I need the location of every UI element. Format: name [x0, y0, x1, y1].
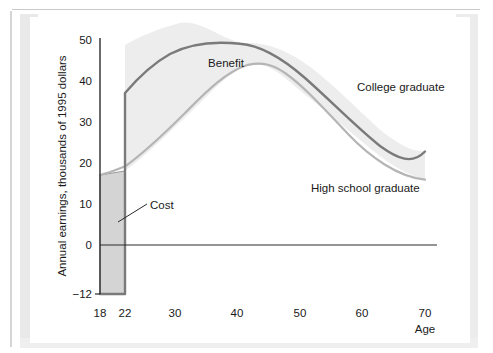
y-tick-50: 50: [79, 34, 92, 46]
x-tick-18: 18: [94, 307, 107, 319]
x-tick-30: 30: [169, 307, 182, 319]
x-tick-50: 50: [294, 307, 307, 319]
chart-canvas: 50 40 30 20 10 0 −12 18 22 30 40 50 60 7…: [0, 0, 493, 353]
page-root: 50 40 30 20 10 0 −12 18 22 30 40 50 60 7…: [0, 0, 493, 353]
benefit-label: Benefit: [208, 57, 245, 69]
benefit-shaded-region: [125, 23, 425, 294]
y-tick-minus12: −12: [72, 288, 92, 300]
y-tick-10: 10: [79, 198, 92, 210]
y-tick-20: 20: [79, 157, 92, 169]
y-tick-0: 0: [86, 239, 92, 251]
x-tick-40: 40: [231, 307, 244, 319]
x-axis-title: Age: [415, 323, 435, 335]
x-tick-70: 70: [419, 307, 432, 319]
college-graduate-label: College graduate: [357, 81, 445, 93]
y-tick-30: 30: [79, 116, 92, 128]
y-tick-40: 40: [79, 75, 92, 87]
x-tick-60: 60: [356, 307, 369, 319]
cost-label: Cost: [150, 199, 174, 211]
cost-shaded-region: [100, 171, 125, 294]
x-tick-22: 22: [119, 307, 132, 319]
high-school-graduate-label: High school graduate: [311, 182, 420, 194]
y-axis-title: Annual earnings, thousands of 1995 dolla…: [56, 55, 68, 276]
